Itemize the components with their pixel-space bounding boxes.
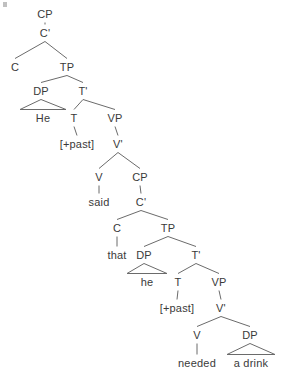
branch-cbar1-c1 — [15, 42, 45, 59]
branch-tp1-dp1 — [41, 76, 67, 83]
branch-tbar2-vp2 — [196, 264, 219, 274]
branch-t1-past1 — [74, 127, 77, 136]
branch-cbar2-tp2 — [141, 211, 168, 220]
tree-node-t1: T — [71, 113, 78, 124]
tree-node-dp2: DP — [136, 250, 152, 261]
tree-node-past1: [+past] — [60, 139, 95, 150]
branch-vbar1-v1 — [99, 153, 118, 169]
tree-node-t2: T — [175, 277, 182, 288]
syntax-tree-diagram: CPC'CTPDPT'HeTVP[+past]V'VCPsaidC'CTPtha… — [0, 0, 290, 384]
tree-node-adrink: a drink — [234, 358, 268, 369]
tree-node-cbar1: C' — [40, 28, 50, 39]
branch-t2-past2 — [177, 291, 178, 300]
tree-node-vbar2: V' — [216, 303, 226, 314]
branch-triangle-dp2-he2 — [127, 264, 167, 274]
branch-tbar2-t2 — [178, 264, 196, 274]
branch-vbar1-cp2 — [118, 153, 140, 169]
branch-vp2-vbar2 — [219, 291, 221, 300]
branch-tbar1-t1 — [74, 100, 83, 110]
tree-node-dp3: DP — [242, 330, 258, 341]
tree-node-vp1: VP — [107, 113, 122, 124]
tree-node-cp1: CP — [37, 9, 53, 20]
tree-node-that: that — [107, 250, 126, 261]
branch-tp1-tbar1 — [67, 76, 83, 83]
branch-tp2-tbar2 — [168, 237, 196, 247]
tree-node-past2: [+past] — [160, 303, 195, 314]
tree-node-cp2: CP — [132, 172, 148, 183]
tree-node-needed: needed — [178, 358, 216, 369]
tree-node-v2: V — [193, 330, 201, 341]
branch-cbar2-c2 — [117, 211, 141, 220]
tree-node-he1: He — [36, 113, 50, 124]
branch-cbar1-tp1 — [45, 42, 67, 59]
tree-node-vp2: VP — [211, 277, 226, 288]
branch-tbar1-vp1 — [83, 100, 115, 110]
branch-triangle-dp3-adrink — [227, 344, 275, 355]
tree-node-said: said — [89, 197, 110, 208]
branch-vbar2-dp3 — [221, 317, 250, 327]
tree-node-he2: he — [141, 277, 154, 288]
tree-node-v1: V — [95, 172, 103, 183]
tree-branches — [0, 0, 290, 384]
tree-node-c2: C — [113, 223, 121, 234]
tree-node-c1: C — [11, 62, 19, 73]
tree-node-tp2: TP — [161, 223, 175, 234]
branch-tp2-dp2 — [144, 237, 168, 247]
tree-node-dp1: DP — [33, 86, 49, 97]
tree-node-tp1: TP — [60, 62, 74, 73]
tree-node-cbar2: C' — [136, 197, 146, 208]
tree-node-tbar2: T' — [191, 250, 200, 261]
branch-cp2-cbar2 — [140, 186, 141, 194]
tree-node-vbar1: V' — [113, 139, 123, 150]
branch-vbar2-v2 — [197, 317, 221, 327]
branch-vp1-vbar1 — [115, 127, 118, 136]
tree-node-tbar1: T' — [78, 86, 87, 97]
branch-triangle-dp1-he1 — [20, 100, 66, 110]
